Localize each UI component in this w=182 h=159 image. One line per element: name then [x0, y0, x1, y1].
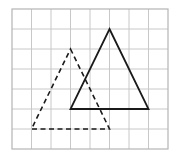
grid-diagram: [0, 0, 182, 159]
grid-lines: [12, 9, 168, 149]
